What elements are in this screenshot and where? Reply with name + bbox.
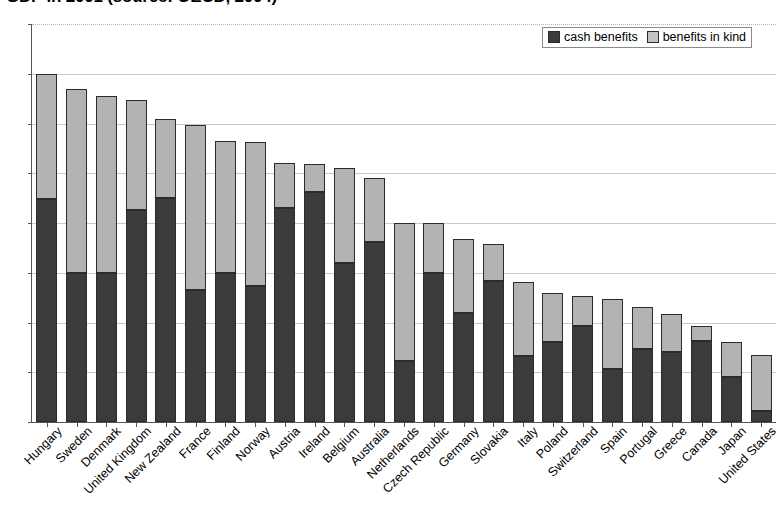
bar-segment-benefits-in-kind [721,342,742,377]
bar-column [96,96,117,422]
bar-column [721,342,742,422]
chart-legend: cash benefits benefits in kind [542,27,752,48]
bar-column [364,178,385,422]
bar-segment-cash-benefits [274,208,295,422]
bar-column [155,119,176,422]
bar-column [661,314,682,422]
bar-column [394,223,415,422]
bar-segment-benefits-in-kind [394,223,415,361]
x-axis-label: Austria [265,424,302,461]
y-axis-tick [28,422,32,423]
bar-segment-cash-benefits [661,352,682,422]
bar-segment-cash-benefits [572,326,593,422]
bar-column [453,239,474,422]
bar-column [245,142,266,422]
bar-segment-benefits-in-kind [245,142,266,285]
bar-column [602,299,623,422]
bar-segment-benefits-in-kind [155,119,176,199]
bar-segment-cash-benefits [185,290,206,422]
bar-column [691,326,712,423]
bar-series-group [32,24,776,422]
bar-segment-cash-benefits [334,263,355,422]
bar-segment-cash-benefits [96,273,117,422]
bar-segment-cash-benefits [542,342,563,422]
bar-segment-cash-benefits [691,341,712,422]
x-axis-labels: HungarySwedenDenmarkUnited KingdomNew Ze… [31,424,784,522]
bar-column [126,100,147,422]
bar-column [542,293,563,422]
bar-segment-benefits-in-kind [423,223,444,273]
bar-column [36,74,57,422]
bar-segment-benefits-in-kind [483,244,504,281]
bar-segment-benefits-in-kind [96,96,117,273]
bar-segment-cash-benefits [364,242,385,422]
chart-title: GDP in 2001 (source: OECD, 2004) [6,0,277,7]
bar-column [513,282,534,422]
legend-item-benefits-in-kind: benefits in kind [647,30,746,44]
bar-segment-cash-benefits [751,411,772,422]
bar-segment-cash-benefits [36,199,57,422]
bar-segment-benefits-in-kind [572,296,593,327]
bar-segment-cash-benefits [453,313,474,422]
bar-segment-cash-benefits [245,286,266,422]
bar-segment-cash-benefits [721,377,742,422]
bar-segment-cash-benefits [483,281,504,422]
legend-item-cash-benefits: cash benefits [548,30,638,44]
bar-segment-benefits-in-kind [36,74,57,199]
bar-segment-benefits-in-kind [334,168,355,263]
bar-column [334,168,355,422]
legend-label-kind: benefits in kind [663,30,746,44]
bar-segment-benefits-in-kind [602,299,623,370]
bar-segment-benefits-in-kind [691,326,712,342]
bar-column [66,89,87,422]
bar-column [632,307,653,422]
bar-segment-cash-benefits [66,273,87,422]
bar-segment-cash-benefits [215,273,236,422]
bar-segment-benefits-in-kind [66,89,87,273]
bar-segment-benefits-in-kind [453,239,474,313]
chart-canvas: GDP in 2001 (source: OECD, 2004) 00,511,… [0,0,784,522]
bar-segment-cash-benefits [632,349,653,422]
bar-column [483,244,504,422]
bar-segment-cash-benefits [602,369,623,422]
bar-column [572,296,593,422]
bar-segment-benefits-in-kind [513,282,534,357]
legend-label-cash: cash benefits [564,30,638,44]
bar-segment-benefits-in-kind [126,100,147,210]
bar-segment-benefits-in-kind [274,163,295,208]
bar-segment-benefits-in-kind [185,125,206,290]
bar-column [423,223,444,422]
bar-segment-benefits-in-kind [364,178,385,242]
bar-segment-benefits-in-kind [304,164,325,192]
bar-segment-cash-benefits [513,356,534,422]
bar-segment-cash-benefits [423,273,444,422]
bar-segment-cash-benefits [394,361,415,422]
bar-column [185,125,206,423]
bar-column [304,164,325,422]
legend-swatch-kind-icon [647,31,659,43]
bar-segment-cash-benefits [155,198,176,422]
bar-segment-cash-benefits [304,192,325,422]
bar-segment-benefits-in-kind [751,355,772,411]
bar-segment-benefits-in-kind [661,314,682,353]
bar-segment-cash-benefits [126,210,147,422]
bar-segment-benefits-in-kind [215,141,236,272]
plot-area [31,24,776,423]
bar-column [215,141,236,422]
bar-column [751,355,772,422]
legend-swatch-cash-icon [548,31,560,43]
bar-segment-benefits-in-kind [632,307,653,350]
bar-segment-benefits-in-kind [542,293,563,343]
bar-column [274,163,295,422]
